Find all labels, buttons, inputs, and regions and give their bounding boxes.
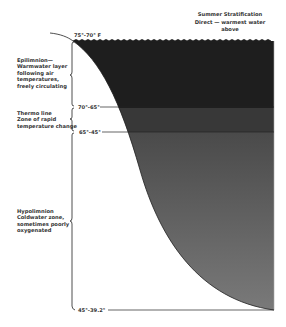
shoreline-curve	[50, 33, 73, 41]
hypolimnion-desc-3: oxygenated	[17, 227, 69, 233]
subtitle-line-2: above	[185, 26, 275, 32]
temp-bottom-thermocline: 65°-45°	[79, 129, 101, 135]
epilimnion-layer	[60, 38, 280, 108]
epilimnion-desc-4: freely circulating	[17, 83, 67, 89]
temp-bottom: 45°-39.2°	[78, 307, 105, 313]
hypolimnion-label: Hypolimnion Coldwater zone, sometimes po…	[17, 208, 69, 234]
title-text: Summer Stratification	[185, 11, 275, 17]
hypolimnion-desc-1: Coldwater zone,	[17, 214, 69, 220]
stratification-diagram	[0, 0, 286, 327]
lake-water	[60, 38, 280, 312]
diagram-title: Summer Stratification Direct — warmest w…	[185, 11, 275, 32]
subtitle-line-1: Direct — warmest water	[185, 19, 275, 25]
thermocline-label: Thermo line Zone of rapid temperature ch…	[17, 110, 77, 129]
epilimnion-brace	[70, 42, 74, 106]
epilimnion-label: Epilimnion— Warmwater layer following ai…	[17, 57, 67, 89]
hypolimnion-layer	[60, 132, 280, 312]
epilimnion-desc-1: Warmwater layer	[17, 63, 67, 69]
temp-surface: 75°-70° F	[74, 32, 101, 38]
temp-top-thermocline: 70°-65°	[78, 104, 100, 110]
hypolimnion-brace	[70, 133, 75, 310]
thermocline-desc-2: temperature change	[17, 123, 77, 129]
